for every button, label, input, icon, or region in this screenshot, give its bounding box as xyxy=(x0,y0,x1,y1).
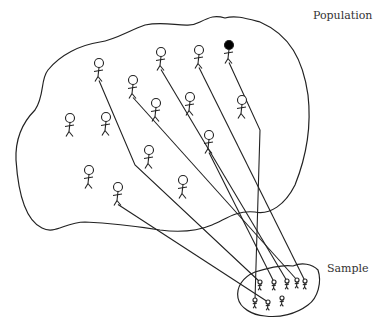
person-icon xyxy=(156,48,166,71)
sample-person-icon xyxy=(258,280,262,290)
person-icon xyxy=(101,113,111,136)
sample-person-icon xyxy=(280,296,284,306)
sampling-diagram xyxy=(0,0,377,333)
person-icon xyxy=(84,166,94,189)
highlighted-person-icon xyxy=(224,41,234,64)
person-icon xyxy=(204,131,214,154)
person-icon xyxy=(65,114,75,137)
population-label: Population xyxy=(313,9,372,22)
person-icon xyxy=(178,176,188,199)
sample-person-icon xyxy=(303,279,307,289)
sample-link-line xyxy=(161,70,287,282)
sample-person-icon xyxy=(285,279,289,289)
sample-link-line xyxy=(209,153,274,283)
sample-label: Sample xyxy=(327,262,369,275)
sample-person-icon xyxy=(253,298,257,308)
sample-person-icon xyxy=(295,278,299,288)
person-icon xyxy=(113,183,123,206)
sample-link-line xyxy=(133,98,297,281)
sample-person-icon xyxy=(266,300,270,310)
sample-person-icon xyxy=(272,280,276,290)
person-icon xyxy=(151,99,161,122)
person-icon xyxy=(194,46,204,69)
sample-link-line xyxy=(199,68,305,282)
person-icon xyxy=(237,96,247,119)
person-icon xyxy=(144,146,154,169)
person-icon xyxy=(128,76,138,99)
person-icon xyxy=(94,59,104,82)
